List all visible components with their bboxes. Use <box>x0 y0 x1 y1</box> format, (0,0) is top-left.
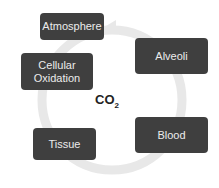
node-atmosphere: Atmosphere <box>40 13 104 40</box>
node-label: Alveoli <box>155 50 187 63</box>
node-label: Blood <box>157 129 185 142</box>
node-cellular-oxidation: Cellular Oxidation <box>21 53 93 90</box>
node-alveoli: Alveoli <box>135 38 208 74</box>
node-label: Tissue <box>49 138 81 151</box>
node-tissue: Tissue <box>33 128 96 160</box>
node-label: Cellular Oxidation <box>34 59 80 85</box>
center-subscript: 2 <box>115 101 119 110</box>
node-blood: Blood <box>135 117 208 153</box>
center-text: CO <box>95 92 115 107</box>
node-label: Atmosphere <box>42 20 101 33</box>
center-label: CO2 <box>95 92 119 110</box>
